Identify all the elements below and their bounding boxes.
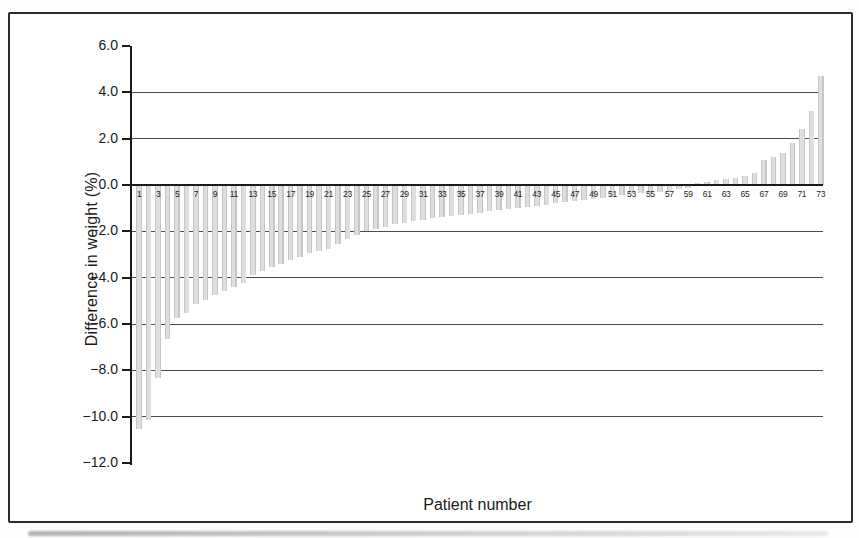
figure-frame: Difference in weight (%) 6.04.02.00.0−2.… (8, 12, 853, 523)
y-tick-label: 6.0 (70, 37, 118, 53)
y-tick-label: −8.0 (70, 361, 118, 377)
bar (250, 186, 256, 275)
gridline (132, 92, 823, 93)
y-tick-label: 4.0 (70, 83, 118, 99)
y-axis-tick (122, 138, 130, 140)
y-tick-label: −10.0 (70, 408, 118, 424)
bar (212, 186, 218, 295)
y-axis-tick (122, 230, 130, 232)
x-axis-title: Patient number (132, 496, 823, 514)
scan-edge-shadow (28, 531, 828, 536)
bar (136, 186, 142, 429)
bar (685, 186, 691, 188)
y-axis-tick (122, 416, 130, 418)
y-axis-tick (122, 369, 130, 371)
bar (193, 186, 199, 304)
x-tick-label: 73 (810, 189, 832, 199)
bar (146, 186, 152, 420)
bar (241, 186, 247, 283)
bar (790, 143, 796, 185)
y-axis-tick (122, 462, 130, 464)
bar (809, 111, 815, 185)
figure-page: Difference in weight (%) 6.04.02.00.0−2.… (0, 0, 859, 538)
gridline (132, 370, 823, 371)
bar (174, 186, 180, 318)
y-axis-line (130, 46, 132, 465)
bar (222, 186, 228, 291)
y-axis-tick (122, 91, 130, 93)
bar (165, 186, 171, 339)
y-axis-tick (122, 323, 130, 325)
y-tick-label: −12.0 (70, 454, 118, 470)
y-axis-tick (122, 45, 130, 47)
plot-area: 6.04.02.00.0−2.0−4.0−6.0−8.0−10.0−12.013… (132, 46, 823, 463)
bar (818, 76, 824, 185)
bar (761, 160, 767, 185)
bar (184, 186, 190, 313)
bar (203, 186, 209, 300)
y-tick-label: 0.0 (70, 176, 118, 192)
y-axis-tick (122, 277, 130, 279)
y-tick-label: −6.0 (70, 315, 118, 331)
x-axis-line (132, 184, 823, 186)
gridline (132, 416, 823, 417)
bar (231, 186, 237, 287)
y-tick-label: −2.0 (70, 222, 118, 238)
y-tick-label: 2.0 (70, 130, 118, 146)
gridline (132, 138, 823, 139)
bar (155, 186, 161, 378)
gridline (132, 324, 823, 325)
bar (771, 157, 777, 185)
y-tick-label: −4.0 (70, 269, 118, 285)
bar (780, 153, 786, 185)
y-axis-tick (122, 184, 130, 186)
bar (799, 129, 805, 185)
